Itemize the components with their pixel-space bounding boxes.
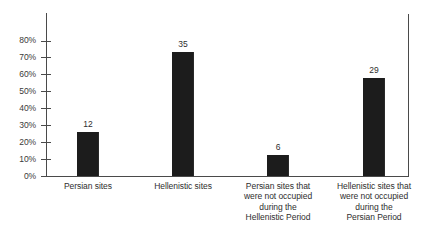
bar <box>267 155 289 176</box>
y-axis-tick <box>41 74 51 75</box>
y-axis-tick-label: 40% <box>3 104 36 113</box>
y-axis-tick-label: 10% <box>3 155 36 164</box>
y-axis-tick <box>41 57 51 58</box>
bar-value-label: 6 <box>258 143 298 152</box>
y-axis-tick <box>41 41 51 42</box>
category-label: Persian sites <box>42 181 134 191</box>
y-axis-tick <box>41 142 51 143</box>
y-axis-tick-label: 80% <box>3 36 36 45</box>
category-label: Hellenistic sites <box>137 181 229 191</box>
y-axis-line <box>46 13 47 177</box>
bar <box>172 52 194 176</box>
bar-value-label: 35 <box>163 40 203 49</box>
category-label-line: Persian Period <box>328 212 420 222</box>
bar-value-label: 29 <box>354 66 394 75</box>
category-label: Hellenistic sites thatwere not occupiedd… <box>328 181 420 223</box>
y-axis-tick-label: 70% <box>3 53 36 62</box>
y-axis-tick <box>41 108 51 109</box>
plot-right-border <box>408 14 409 177</box>
category-label-line: Persian sites <box>42 181 134 191</box>
category-label-line: during the <box>232 202 324 212</box>
bar-chart: 0%10%20%30%40%50%60%70%80% 1235629 Persi… <box>0 0 440 234</box>
category-label-line: Hellenistic Period <box>232 212 324 222</box>
y-axis-tick-label: 50% <box>3 87 36 96</box>
category-label-line: Hellenistic sites that <box>328 181 420 191</box>
y-axis-tick-label: 20% <box>3 138 36 147</box>
x-axis-line <box>46 176 408 177</box>
category-label-line: were not occupied <box>328 191 420 201</box>
category-label-line: were not occupied <box>232 191 324 201</box>
category-label-line: Hellenistic sites <box>137 181 229 191</box>
y-axis-tick <box>41 125 51 126</box>
bar-value-label: 12 <box>68 120 108 129</box>
y-axis-tick <box>41 91 51 92</box>
bar <box>77 132 99 176</box>
y-axis-tick-label: 30% <box>3 121 36 130</box>
bar <box>363 78 385 176</box>
y-axis-tick <box>41 159 51 160</box>
category-label: Persian sites thatwere not occupieddurin… <box>232 181 324 223</box>
y-axis-tick-label: 0% <box>3 172 36 181</box>
y-axis-tick <box>41 176 51 177</box>
y-axis-tick-label: 60% <box>3 70 36 79</box>
category-label-line: Persian sites that <box>232 181 324 191</box>
category-label-line: during the <box>328 202 420 212</box>
